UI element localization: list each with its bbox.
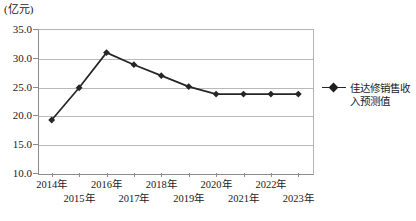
y-axis-tick-label: 20.0 [0, 110, 32, 121]
x-axis-tick [216, 173, 217, 177]
x-axis-tick [244, 173, 245, 177]
y-axis-tick-label: 35.0 [0, 24, 32, 35]
gridline [39, 88, 313, 89]
line-chart: (亿元) 佳达修销售收入预测值 10.015.020.025.030.035.0… [0, 0, 416, 221]
legend-label: 佳达修销售收入预测值 [350, 82, 416, 108]
x-axis-tick [52, 173, 53, 177]
x-axis-tick-label: 2023年 [283, 193, 314, 205]
plot-area [38, 29, 314, 175]
y-axis-tick-label: 30.0 [0, 53, 32, 64]
chart-legend: 佳达修销售收入预测值 [322, 82, 416, 108]
x-axis-tick [271, 173, 272, 177]
y-axis-tick-label: 10.0 [0, 168, 32, 179]
x-axis-tick-label: 2016年 [91, 179, 122, 191]
y-axis-tick [33, 173, 38, 174]
x-axis-tick-label: 2014年 [36, 179, 67, 191]
x-axis-tick-label: 2018年 [146, 179, 177, 191]
x-axis-tick-label: 2020年 [201, 179, 232, 191]
legend-swatch-icon [322, 82, 346, 94]
x-axis-tick-label: 2019年 [173, 193, 204, 205]
x-axis-tick [107, 173, 108, 177]
gridline [39, 116, 313, 117]
y-axis-tick [33, 29, 38, 30]
gridline [39, 59, 313, 60]
x-axis-tick-label: 2022年 [255, 179, 286, 191]
y-axis-tick-label: 25.0 [0, 82, 32, 93]
y-axis-tick [33, 144, 38, 145]
x-axis-tick-label: 2021年 [228, 193, 259, 205]
x-axis-tick [189, 173, 190, 177]
x-axis-tick [79, 173, 80, 177]
x-axis-tick-label: 2015年 [64, 193, 95, 205]
x-axis-tick-label: 2017年 [118, 193, 149, 205]
y-axis-tick [33, 58, 38, 59]
x-axis-tick [161, 173, 162, 177]
y-axis-tick [33, 115, 38, 116]
y-axis-tick [33, 87, 38, 88]
x-axis-tick [298, 173, 299, 177]
y-axis-unit-label: (亿元) [4, 2, 33, 16]
y-axis-tick-label: 15.0 [0, 139, 32, 150]
gridline [39, 145, 313, 146]
x-axis-tick [134, 173, 135, 177]
